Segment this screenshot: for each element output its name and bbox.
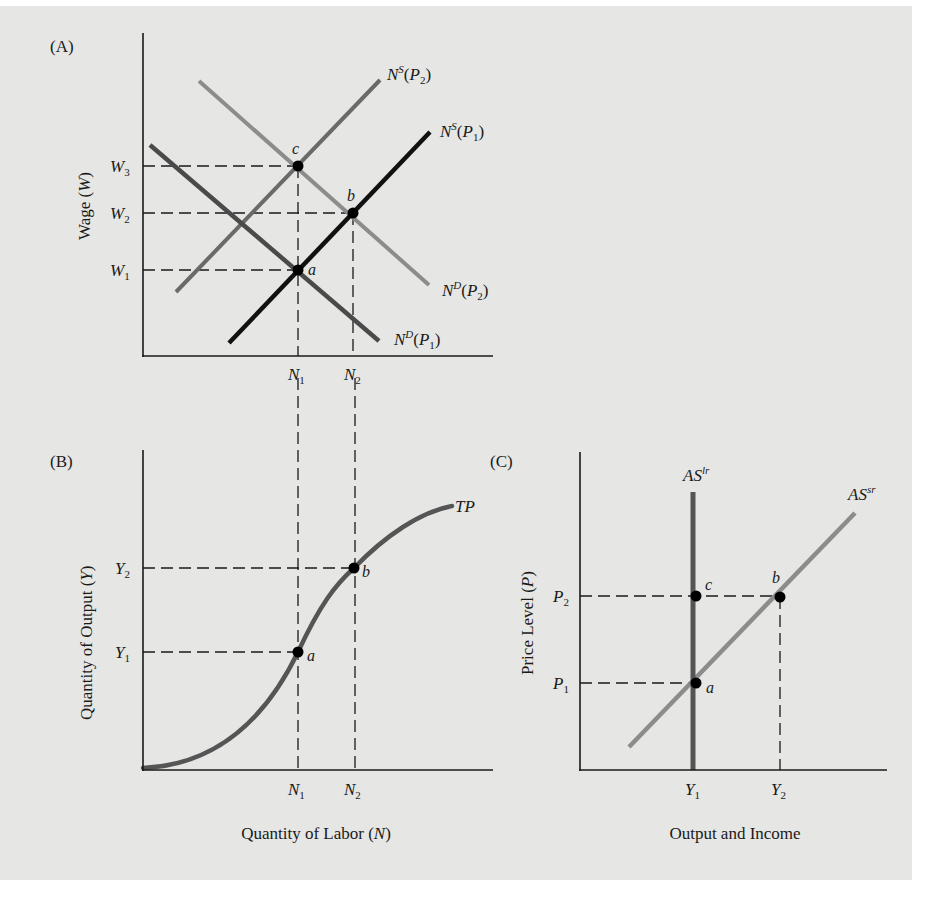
panel-c-tag: (C) bbox=[490, 452, 513, 471]
panel-b-y-label: Quantity of Output (Y) bbox=[77, 566, 96, 720]
tick-w2: W2 bbox=[110, 204, 130, 225]
tick-y2: Y2 bbox=[115, 559, 130, 580]
label-as-lr: ASlr bbox=[682, 464, 710, 485]
nd-p1-curve bbox=[150, 145, 379, 341]
point-c-label: c bbox=[705, 576, 712, 593]
point-b bbox=[775, 592, 786, 603]
panel-a-guides bbox=[143, 166, 355, 770]
panel-c-y-label: Price Level (P) bbox=[518, 571, 537, 675]
point-c bbox=[691, 591, 702, 602]
tick-n1: N1 bbox=[287, 365, 305, 386]
point-a-label: a bbox=[308, 261, 316, 278]
point-b-label: b bbox=[362, 563, 370, 580]
point-a bbox=[293, 647, 304, 658]
panel-b-x-label: Quantity of Labor (N) bbox=[241, 824, 391, 843]
as-sr-curve bbox=[629, 513, 855, 747]
label-as-sr: ASsr bbox=[847, 483, 876, 504]
panel-b-tag: (B) bbox=[50, 452, 73, 471]
point-a-label: a bbox=[706, 679, 714, 696]
point-c bbox=[293, 161, 304, 172]
panel-c-x-label: Output and Income bbox=[669, 824, 800, 843]
point-c-label: c bbox=[292, 140, 299, 157]
tick-p2: P2 bbox=[552, 587, 569, 608]
economics-figure: (A) c b a W3 W2 W1 N1 N2 bbox=[0, 0, 934, 901]
point-a-label: a bbox=[307, 647, 315, 664]
label-nd-p1: ND(P1) bbox=[393, 328, 441, 351]
tick-y1: Y1 bbox=[115, 643, 130, 664]
tick-y2: Y2 bbox=[771, 780, 786, 801]
tick-y1: Y1 bbox=[685, 780, 700, 801]
tick-n1: N1 bbox=[287, 780, 305, 801]
label-nd-p2: ND(P2) bbox=[441, 279, 489, 302]
tick-w3: W3 bbox=[110, 157, 130, 178]
label-tp: TP bbox=[455, 497, 475, 516]
panel-a-y-label: Wage (W) bbox=[75, 172, 94, 240]
point-b-label: b bbox=[772, 569, 780, 586]
point-a bbox=[293, 265, 304, 276]
point-b bbox=[349, 563, 360, 574]
point-b-label: b bbox=[347, 187, 355, 204]
panel-a-tag: (A) bbox=[50, 37, 74, 56]
tick-n2: N2 bbox=[343, 780, 361, 801]
panel-b: (B) b a TP Y2 Y1 N1 N2 Quantity of Outpu… bbox=[50, 450, 493, 843]
point-b bbox=[348, 208, 359, 219]
point-a bbox=[691, 678, 702, 689]
tick-p1: P1 bbox=[552, 674, 569, 695]
label-ns-p2: NS(P2) bbox=[386, 63, 431, 86]
label-ns-p1: NS(P1) bbox=[439, 120, 484, 143]
tick-n2: N2 bbox=[343, 365, 361, 386]
ns-p2-curve bbox=[176, 80, 380, 292]
tick-w1: W1 bbox=[110, 261, 130, 282]
panel-c: (C) c b a ASlr ASsr P2 P1 Y1 Y2 Price Le… bbox=[490, 452, 887, 843]
